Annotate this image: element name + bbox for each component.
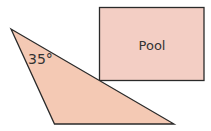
pool-label: Pool: [139, 38, 166, 53]
pool-shape: Pool: [100, 8, 205, 81]
diagram-canvas: Pool 35°: [0, 0, 211, 131]
angle-label: 35°: [28, 51, 53, 67]
